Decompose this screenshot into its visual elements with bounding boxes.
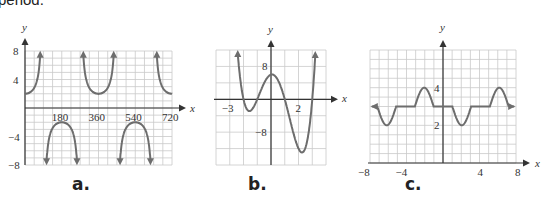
svg-text:180: 180 [52,111,69,123]
charts-canvas: yx84−4−8180360540720yx−328−8yx−8−44842 [0,0,553,202]
arrow-icon [523,160,530,167]
svg-text:x: x [189,102,195,114]
chart-a [22,38,187,165]
svg-text:y: y [439,21,445,33]
arrow-icon [37,51,44,58]
arrow-icon [73,158,80,165]
arrow-icon [153,51,160,58]
arrow-icon [147,158,154,165]
chart-c [368,40,530,167]
svg-text:360: 360 [89,111,106,123]
arrow-icon [312,51,319,58]
polynomial-curve [238,54,316,153]
svg-text:8: 8 [262,60,268,72]
arrow-icon [110,51,117,58]
svg-text:−4: −4 [8,131,20,143]
panel-label-a: a. [72,174,90,194]
svg-text:2: 2 [296,102,302,114]
svg-text:−8: −8 [8,159,20,171]
svg-text:x: x [341,92,347,104]
svg-text:8: 8 [13,45,19,57]
svg-text:−3: −3 [222,102,234,114]
svg-text:4: 4 [478,166,484,178]
panel-label-c: c. [405,174,422,194]
arrow-icon [371,103,378,110]
arrow-icon [117,158,124,165]
svg-text:−8: −8 [255,126,267,138]
arrow-icon [80,51,87,58]
svg-text:540: 540 [125,111,142,123]
svg-text:x: x [534,157,540,169]
svg-text:y: y [21,21,27,33]
curve-branch [25,55,40,94]
svg-text:y: y [267,23,273,35]
curve-branch [157,55,172,94]
svg-text:720: 720 [162,111,179,123]
arrow-icon [268,40,275,47]
arrow-icon [331,96,338,103]
panel-label-b: b. [248,174,267,194]
svg-text:−8: −8 [358,166,370,178]
arrow-icon [43,158,50,165]
arrow-icon [440,40,447,47]
svg-text:4: 4 [13,74,19,86]
svg-text:8: 8 [515,166,521,178]
svg-text:2: 2 [434,119,440,131]
arrow-icon [234,50,241,57]
arrow-icon [508,103,515,110]
arrow-icon [22,38,29,45]
svg-text:4: 4 [434,82,440,94]
arrow-icon [179,105,186,112]
